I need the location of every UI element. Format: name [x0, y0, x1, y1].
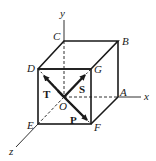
- label-b: B: [122, 35, 129, 47]
- vectors: [44, 75, 87, 120]
- cube-diagram: y x z C B D G A O E F T S P: [0, 0, 156, 161]
- label-x: x: [143, 90, 149, 102]
- label-c: C: [53, 30, 61, 42]
- cube-diagram-svg: y x z C B D G A O E F T S P: [0, 0, 156, 161]
- label-o: O: [59, 100, 67, 112]
- label-vector-p: P: [70, 114, 77, 126]
- label-a: A: [119, 86, 127, 98]
- label-vector-t: T: [43, 88, 51, 100]
- label-f: F: [93, 121, 101, 133]
- label-vector-s: S: [79, 83, 85, 95]
- label-d: D: [26, 62, 35, 74]
- label-g: G: [94, 63, 102, 75]
- label-y: y: [59, 7, 65, 19]
- top-face: [38, 41, 118, 69]
- label-z: z: [8, 145, 14, 157]
- edge-af: [91, 97, 118, 124]
- label-e: E: [26, 119, 34, 131]
